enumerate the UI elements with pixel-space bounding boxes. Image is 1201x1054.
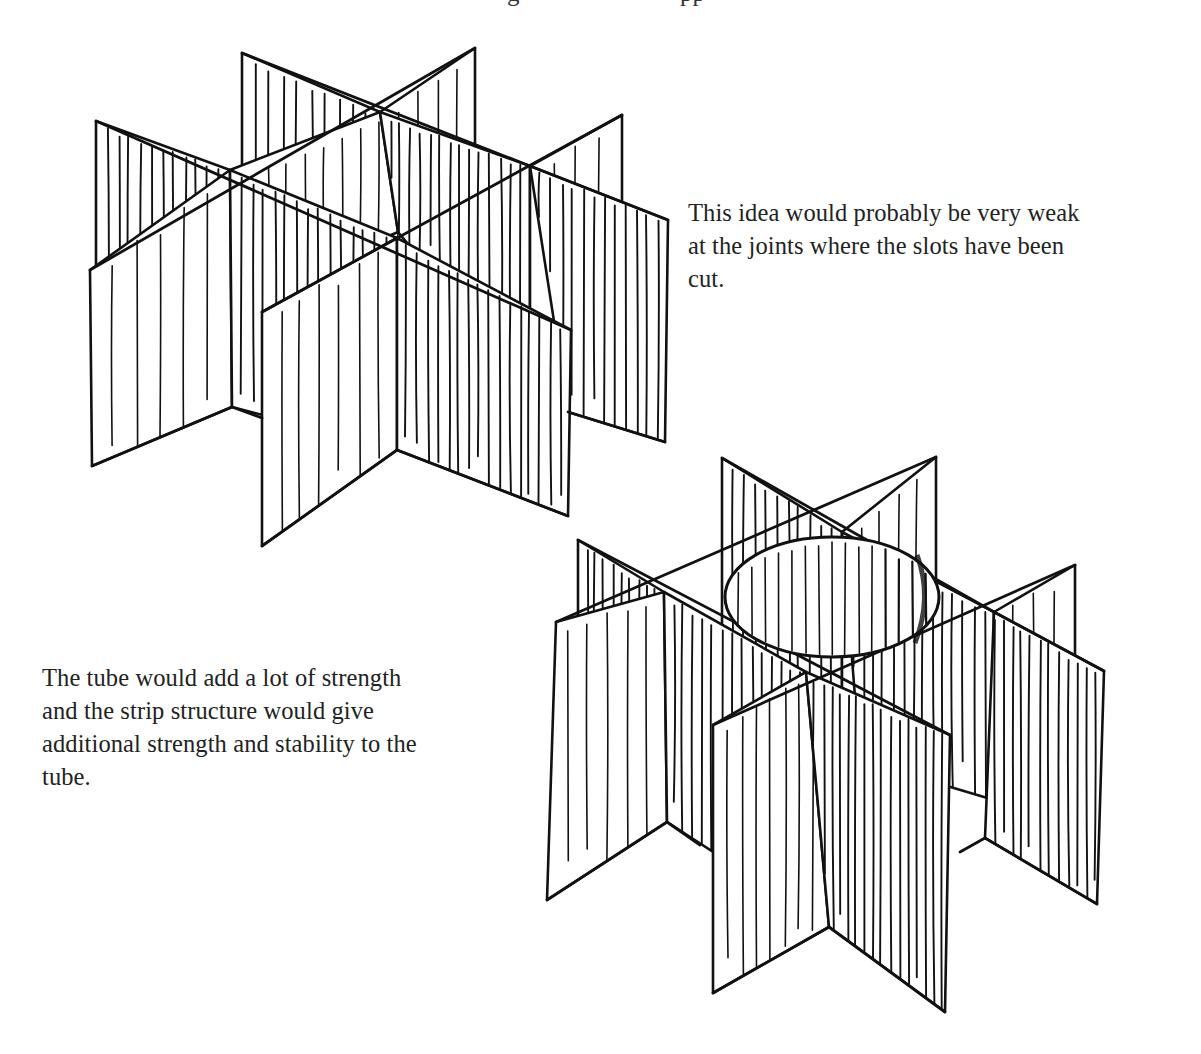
sketch-layer [0, 0, 1201, 1054]
lattice-sketches-illustration [0, 0, 1201, 1054]
document-page: g pp This idea would probably be very we… [0, 0, 1201, 1054]
caption-line: at the joints where the slots have been [688, 229, 1080, 262]
caption-line: This idea would probably be very weak [688, 196, 1080, 229]
lattice-with-tube-sketch [547, 457, 1104, 1012]
caption-weak-joints: This idea would probably be very weak at… [688, 196, 1080, 295]
caption-line: tube. [42, 760, 417, 793]
tube-cylinder [725, 537, 939, 657]
caption-tube-strength: The tube would add a lot of strength and… [42, 661, 417, 793]
caption-line: additional strength and stability to the [42, 727, 417, 760]
slotted-lattice-sketch [90, 48, 668, 546]
caption-line: cut. [688, 262, 1080, 295]
left-strip-front-panel [547, 592, 667, 900]
caption-line: The tube would add a lot of strength [42, 661, 417, 694]
caption-line: and the strip structure would give [42, 694, 417, 727]
right-strip-panel [985, 612, 1104, 904]
